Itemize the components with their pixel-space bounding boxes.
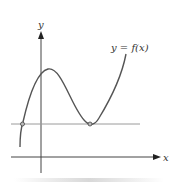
bottom-shadow [14,178,164,182]
y-axis-label: y [37,19,44,30]
x-axis-label: x [163,152,169,163]
curve-label: y = f(x) [110,42,149,53]
minimum-point [88,122,92,126]
left-intersection-point [21,122,25,126]
x-axis-arrow-icon [153,154,161,160]
function-graph: y x y = f(x) [0,0,175,184]
function-curve [20,54,126,147]
y-axis-arrow-icon [38,31,44,39]
